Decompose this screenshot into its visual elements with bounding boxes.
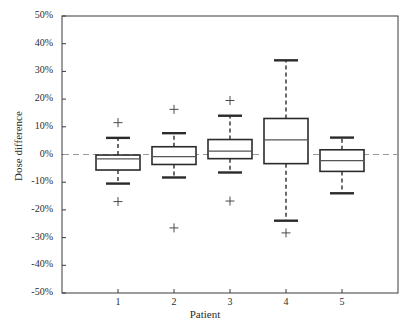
boxplot-canvas [0,0,410,327]
box-iqr [96,155,140,170]
box-iqr [208,140,252,159]
boxplot-figure: Dose difference Patient 50%40%30%20%10%0… [0,0,410,327]
box-iqr [152,147,196,165]
box-iqr [264,118,308,163]
